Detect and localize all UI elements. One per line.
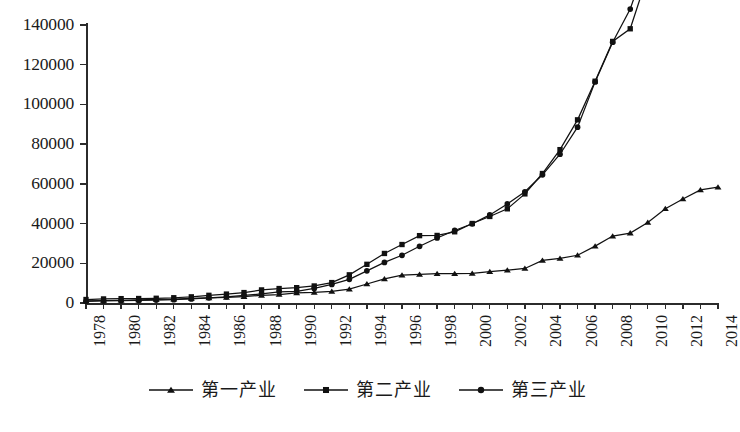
data-point-marker: [399, 252, 405, 258]
data-point-marker: [224, 294, 230, 300]
data-point-marker: [206, 295, 212, 301]
data-point-marker: [487, 212, 493, 218]
data-point-marker: [364, 268, 370, 274]
data-point-marker: [505, 206, 510, 211]
data-point-marker: [346, 276, 352, 282]
data-point-marker: [592, 79, 598, 85]
data-point-marker: [399, 242, 404, 247]
data-point-marker: [171, 297, 177, 303]
data-point-marker: [662, 206, 669, 211]
data-point-marker: [628, 26, 633, 31]
chart-legend: 第一产业第二产业第三产业: [0, 381, 734, 399]
data-point-marker: [592, 243, 599, 248]
legend-item-2[interactable]: 第二产业: [303, 381, 432, 399]
data-point-marker: [469, 221, 475, 227]
data-point-marker: [679, 196, 686, 201]
data-point-marker: [311, 286, 317, 292]
data-point-marker: [452, 228, 458, 234]
data-point-marker: [417, 233, 422, 238]
data-point-marker: [382, 251, 387, 256]
data-point-marker: [417, 243, 423, 249]
data-point-marker: [715, 184, 722, 189]
data-point-marker: [153, 297, 159, 303]
data-point-marker: [434, 235, 440, 241]
data-point-marker: [364, 262, 369, 267]
data-point-marker: [118, 298, 124, 304]
data-point-marker: [610, 39, 616, 45]
data-point-marker: [522, 189, 528, 195]
legend-label: 第三产业: [511, 381, 587, 399]
data-point-marker: [574, 252, 581, 257]
legend-label: 第一产业: [201, 381, 277, 399]
data-point-marker: [276, 289, 282, 295]
data-point-marker: [540, 172, 546, 178]
data-point-marker: [241, 293, 247, 299]
data-point-marker: [504, 201, 510, 207]
data-point-marker: [575, 124, 581, 130]
series-3: [83, 0, 721, 304]
data-point-marker: [259, 291, 265, 297]
legend-label: 第二产业: [356, 381, 432, 399]
circle-marker-icon: [458, 382, 504, 398]
data-point-marker: [136, 298, 142, 304]
data-point-marker: [627, 6, 633, 12]
triangle-marker-icon: [148, 382, 194, 398]
legend-item-3[interactable]: 第三产业: [458, 381, 587, 399]
data-point-marker: [382, 260, 388, 266]
data-point-marker: [557, 151, 563, 157]
square-marker-icon: [303, 382, 349, 398]
data-point-marker: [329, 282, 335, 288]
legend-item-1[interactable]: 第一产业: [148, 381, 277, 399]
data-point-marker: [83, 298, 89, 304]
data-point-marker: [188, 296, 194, 302]
data-point-marker: [294, 288, 300, 294]
data-point-marker: [101, 298, 107, 304]
